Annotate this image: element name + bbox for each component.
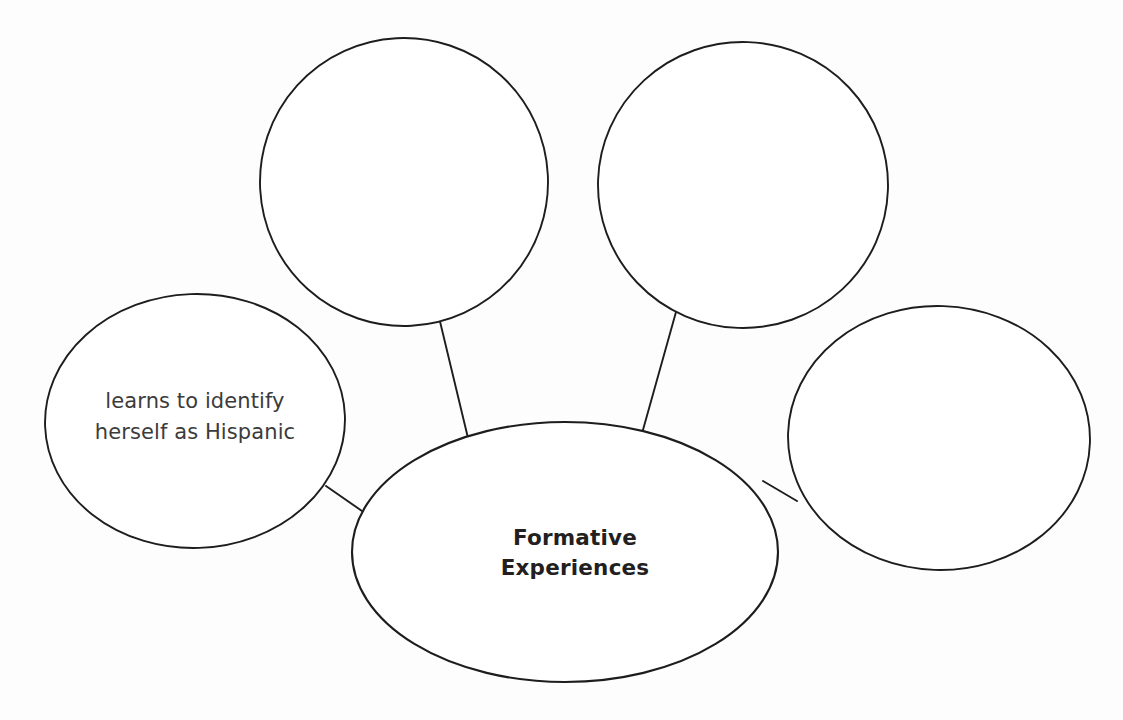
connector-center-to-left[interactable] (326, 486, 362, 511)
connector-center-to-right[interactable] (763, 481, 797, 501)
bubble-top-right[interactable] (593, 37, 893, 333)
bubble-left[interactable] (41, 289, 350, 553)
concept-map-drawing (0, 0, 1123, 720)
concept-map-canvas: Formative Experiences learns to identify… (0, 0, 1123, 720)
bubble-center[interactable] (352, 422, 778, 682)
connector-center-to-top-right[interactable] (641, 312, 676, 437)
bubble-top-left[interactable] (253, 31, 556, 334)
connector-center-to-top-left[interactable] (437, 309, 468, 438)
bubble-right[interactable] (783, 301, 1094, 575)
